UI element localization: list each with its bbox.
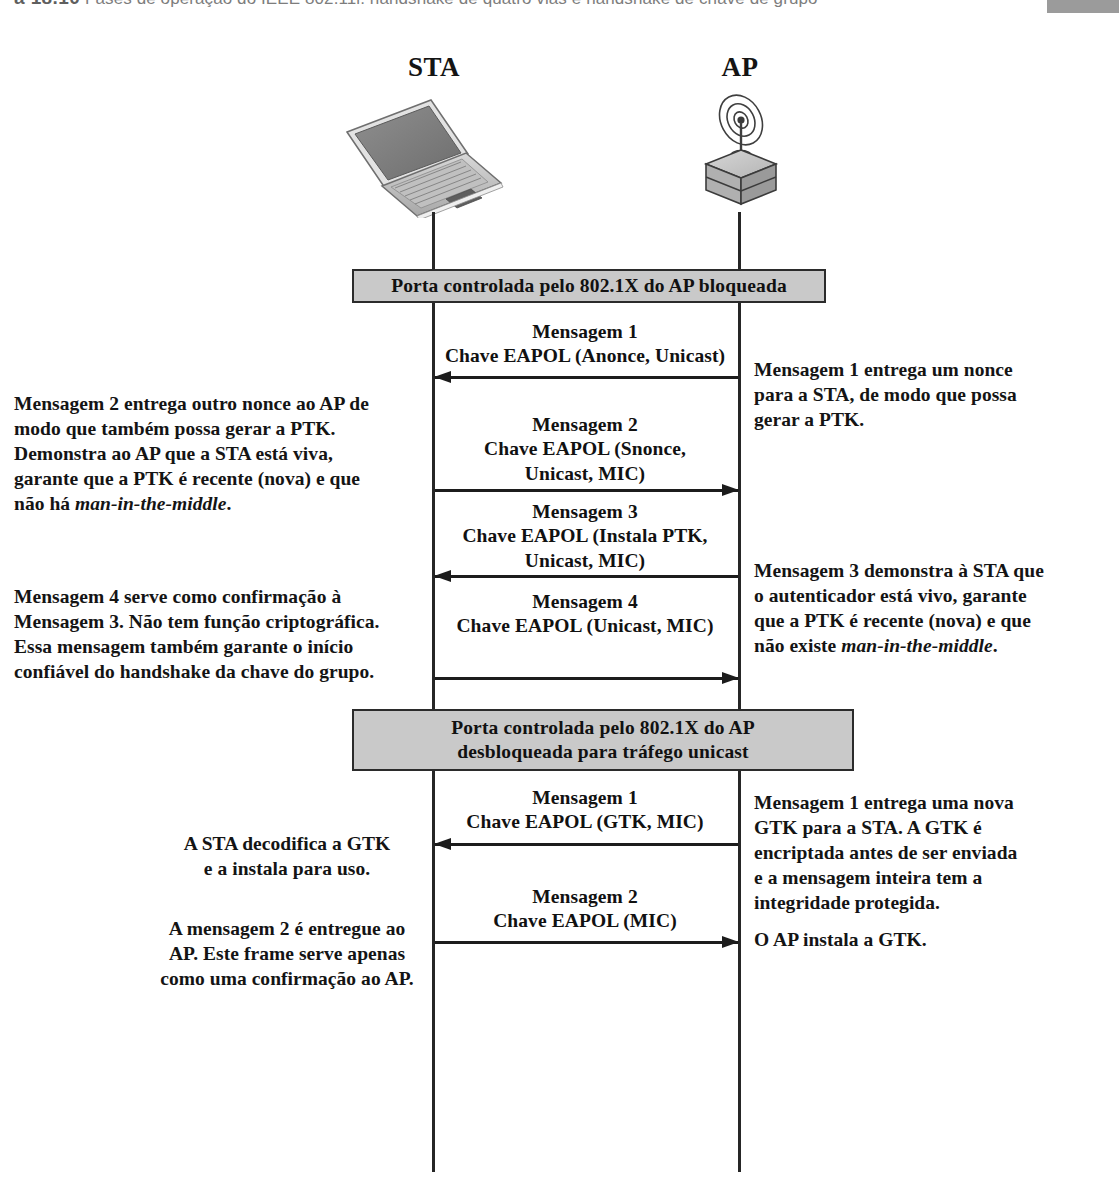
endpoint-label-sta: STA — [374, 52, 494, 83]
phase-bar-unblocked-line2: desbloqueada para tráfego unicast — [457, 740, 749, 764]
arrow-4way-4-sta-to-ap — [435, 672, 738, 684]
annotation-line: modo que também possa gerar a PTK. — [14, 417, 434, 442]
access-point-antenna-icon — [688, 92, 794, 220]
message-title: Mensagem 2 — [432, 413, 738, 437]
arrow-shaft — [435, 843, 738, 846]
message-title: Mensagem 3 — [432, 500, 738, 524]
page-corner-swatch — [1047, 0, 1119, 13]
annotation-gtk-decode-left: A STA decodifica a GTK e a instala para … — [140, 832, 434, 882]
arrow-head — [434, 371, 451, 383]
arrow-group-1-ap-to-sta — [435, 838, 738, 850]
message-label-group-1: Mensagem 1 Chave EAPOL (GTK, MIC) — [432, 786, 738, 835]
annotation-text: não existe — [754, 635, 841, 656]
arrow-head — [434, 838, 451, 850]
message-title: Mensagem 1 — [432, 786, 738, 810]
annotation-message3-right: Mensagem 3 demonstra à STA que o autenti… — [754, 559, 1110, 659]
annotation-message2-left: Mensagem 2 entrega outro nonce ao AP de … — [14, 392, 434, 517]
annotation-line: Mensagem 3. Não tem função criptográfica… — [14, 610, 434, 635]
arrow-head — [722, 936, 739, 948]
message-label-4way-1: Mensagem 1 Chave EAPOL (Anonce, Unicast) — [432, 320, 738, 369]
message-body-line1: Chave EAPOL (Snonce, — [432, 437, 738, 461]
annotation-line: Mensagem 4 serve como confirmação à — [14, 585, 434, 610]
message-label-4way-3: Mensagem 3 Chave EAPOL (Instala PTK, Uni… — [432, 500, 738, 573]
annotation-line: A mensagem 2 é entregue ao — [140, 917, 434, 942]
annotation-text: . — [226, 493, 231, 514]
annotation-line: integridade protegida. — [754, 891, 1110, 916]
message-body: Chave EAPOL (Anonce, Unicast) — [432, 344, 738, 368]
arrow-shaft — [435, 376, 738, 379]
figure-caption-body: Fases de operação do IEEE 802.11i: hands… — [85, 0, 818, 8]
annotation-line: não existe man-in-the-middle. — [754, 634, 1110, 659]
laptop-icon — [325, 98, 510, 218]
arrow-shaft — [435, 941, 738, 944]
annotation-line: e a instala para uso. — [140, 857, 434, 882]
message-label-group-2: Mensagem 2 Chave EAPOL (MIC) — [432, 885, 738, 934]
annotation-ap-installs-gtk-right: O AP instala a GTK. — [754, 928, 1110, 953]
annotation-gtk-message1-right: Mensagem 1 entrega uma nova GTK para a S… — [754, 791, 1110, 916]
annotation-line: Essa mensagem também garante o início — [14, 635, 434, 660]
annotation-message1-right: Mensagem 1 entrega um nonce para a STA, … — [754, 358, 1110, 433]
annotation-line: confiável do handshake da chave do grupo… — [14, 660, 434, 685]
figure-number: a 18.10 — [14, 0, 80, 8]
annotation-line: como uma confirmação ao AP. — [140, 967, 434, 992]
annotation-italic-term: man-in-the-middle — [841, 635, 992, 656]
arrow-shaft — [435, 677, 738, 680]
arrow-head — [722, 484, 739, 496]
annotation-gtk-message2-left: A mensagem 2 é entregue ao AP. Este fram… — [140, 917, 434, 992]
annotation-line: o autenticador está vivo, garante — [754, 584, 1110, 609]
phase-bar-port-blocked: Porta controlada pelo 802.1X do AP bloqu… — [352, 269, 826, 303]
message-body-line2: Unicast, MIC) — [432, 462, 738, 486]
annotation-line: e a mensagem inteira tem a — [754, 866, 1110, 891]
annotation-line: que a PTK é recente (nova) e que — [754, 609, 1110, 634]
arrow-4way-1-ap-to-sta — [435, 371, 738, 383]
annotation-line: GTK para a STA. A GTK é — [754, 816, 1110, 841]
annotation-message4-left: Mensagem 4 serve como confirmação à Mens… — [14, 585, 434, 685]
annotation-text: . — [993, 635, 998, 656]
annotation-line: Mensagem 1 entrega um nonce — [754, 358, 1110, 383]
message-title: Mensagem 1 — [432, 320, 738, 344]
message-body: Chave EAPOL (Unicast, MIC) — [432, 614, 738, 638]
endpoint-label-ap: AP — [680, 52, 800, 83]
annotation-line: não há man-in-the-middle. — [14, 492, 434, 517]
annotation-line: Mensagem 1 entrega uma nova — [754, 791, 1110, 816]
message-label-4way-4: Mensagem 4 Chave EAPOL (Unicast, MIC) — [432, 590, 738, 639]
message-title: Mensagem 4 — [432, 590, 738, 614]
annotation-line: Demonstra ao AP que a STA está viva, — [14, 442, 434, 467]
figure-caption-text: a 18.10 Fases de operação do IEEE 802.11… — [14, 0, 818, 9]
phase-bar-unblocked-line1: Porta controlada pelo 802.1X do AP — [451, 716, 755, 740]
message-label-4way-2: Mensagem 2 Chave EAPOL (Snonce, Unicast,… — [432, 413, 738, 486]
annotation-line: Mensagem 3 demonstra à STA que — [754, 559, 1110, 584]
annotation-line: AP. Este frame serve apenas — [140, 942, 434, 967]
arrow-head — [722, 672, 739, 684]
message-body: Chave EAPOL (GTK, MIC) — [432, 810, 738, 834]
annotation-line: gerar a PTK. — [754, 408, 1110, 433]
message-body: Chave EAPOL (MIC) — [432, 909, 738, 933]
phase-bar-blocked-line1: Porta controlada pelo 802.1X do AP bloqu… — [391, 274, 787, 298]
arrow-shaft — [435, 489, 738, 492]
arrow-4way-2-sta-to-ap — [435, 484, 738, 496]
message-body-line1: Chave EAPOL (Instala PTK, — [432, 524, 738, 548]
figure-canvas: a 18.10 Fases de operação do IEEE 802.11… — [0, 0, 1119, 1184]
annotation-text: não há — [14, 493, 75, 514]
annotation-line: para a STA, de modo que possa — [754, 383, 1110, 408]
annotation-line: encriptada antes de ser enviada — [754, 841, 1110, 866]
annotation-line: Mensagem 2 entrega outro nonce ao AP de — [14, 392, 434, 417]
annotation-line: A STA decodifica a GTK — [140, 832, 434, 857]
arrow-head — [434, 570, 451, 582]
message-title: Mensagem 2 — [432, 885, 738, 909]
figure-caption: a 18.10 Fases de operação do IEEE 802.11… — [0, 0, 1119, 14]
arrow-shaft — [435, 575, 738, 578]
phase-bar-port-unblocked: Porta controlada pelo 802.1X do AP desbl… — [352, 709, 854, 771]
arrow-4way-3-ap-to-sta — [435, 570, 738, 582]
lifeline-ap — [738, 212, 741, 1172]
annotation-line: garante que a PTK é recente (nova) e que — [14, 467, 434, 492]
arrow-group-2-sta-to-ap — [435, 936, 738, 948]
annotation-line: O AP instala a GTK. — [754, 928, 1110, 953]
annotation-italic-term: man-in-the-middle — [75, 493, 226, 514]
